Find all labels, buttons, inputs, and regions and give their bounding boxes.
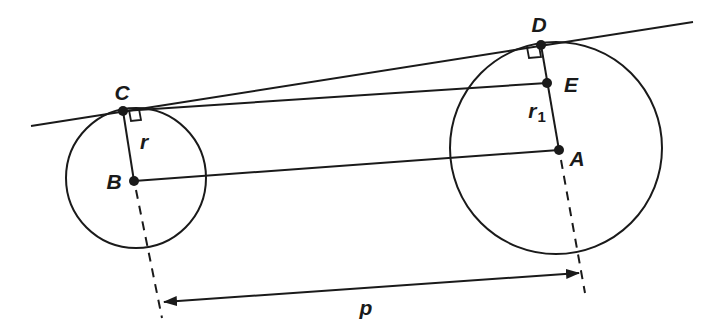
label-r: r — [140, 131, 148, 152]
geometry-figure — [0, 0, 717, 332]
point-a — [554, 145, 564, 155]
label-p: p — [360, 297, 373, 318]
label-a: A — [569, 148, 584, 169]
point-c — [118, 106, 128, 116]
point-b — [129, 176, 139, 186]
dashed-extension-b — [136, 190, 162, 318]
label-c: C — [114, 82, 129, 103]
label-r1: r1 — [528, 100, 546, 124]
label-r1-subscript: 1 — [537, 108, 545, 125]
label-b: B — [106, 171, 121, 192]
label-d: D — [531, 14, 546, 35]
line-ce — [123, 83, 547, 111]
line-ba — [134, 150, 559, 181]
radius-da — [541, 45, 559, 150]
label-e: E — [564, 74, 578, 95]
diagram-canvas: C B r D E r1 A p — [0, 0, 717, 332]
point-d — [536, 40, 546, 50]
point-e — [542, 78, 552, 88]
label-r1-main: r — [528, 99, 536, 122]
